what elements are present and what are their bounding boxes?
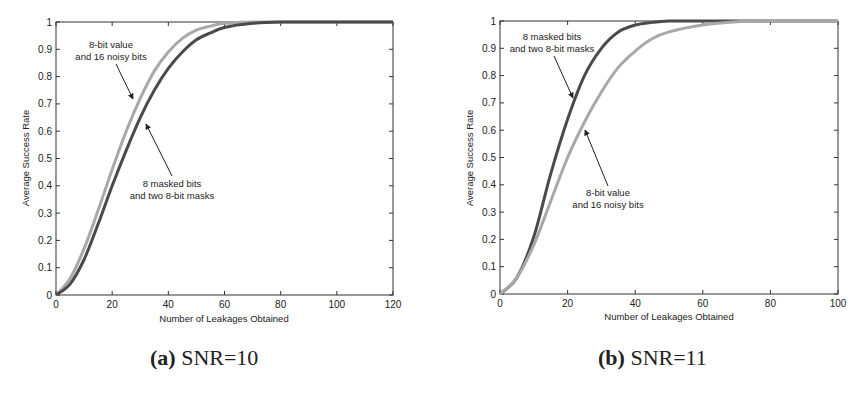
caption-a-label: (a): [150, 345, 176, 370]
y-tick-label: 1: [46, 17, 52, 28]
annotation-masked-bits-line2: and two 8-bit masks: [130, 190, 215, 201]
caption-a: (a) SNR=10: [150, 345, 258, 371]
y-tick-label: 0.9: [482, 43, 496, 54]
y-axis-label: Average Success Rate: [20, 110, 31, 206]
y-tick-label: 0.4: [38, 180, 52, 191]
x-tick-label: 0: [497, 298, 503, 309]
y-axis-label: Average Success Rate: [464, 110, 475, 206]
y-tick-label: 0.1: [482, 261, 496, 272]
annotation-masked-bits-line1: 8 masked bits: [523, 31, 582, 42]
caption-b-text: SNR=11: [630, 345, 706, 370]
series-line: [500, 21, 838, 294]
y-tick-label: 0.3: [482, 207, 496, 218]
y-tick-label: 0.2: [38, 235, 52, 246]
caption-a-text: SNR=10: [181, 345, 258, 370]
y-tick-label: 0.7: [482, 97, 496, 108]
y-tick-label: 0.2: [482, 234, 496, 245]
x-tick-label: 80: [275, 299, 287, 310]
x-tick-label: 40: [630, 298, 642, 309]
x-axis-ticks: 020406080100120: [53, 22, 402, 310]
x-tick-label: 100: [328, 299, 345, 310]
y-tick-label: 0.5: [482, 152, 496, 163]
series-line: [56, 22, 393, 295]
chart-b-snr11: 020406080100 00.10.20.30.40.50.60.70.80.…: [464, 16, 847, 323]
y-tick-label: 0.5: [38, 153, 52, 164]
y-tick-label: 0: [490, 289, 496, 300]
y-tick-label: 0.3: [38, 208, 52, 219]
annotation-masked-bits-line1: 8 masked bits: [143, 178, 202, 189]
y-tick-label: 0.6: [38, 126, 52, 137]
x-tick-label: 60: [697, 298, 709, 309]
annotation-noisy-bits-line1: 8-bit value: [586, 187, 630, 198]
y-tick-label: 1: [490, 16, 496, 27]
annotation-arrow: [146, 124, 172, 176]
y-tick-label: 0.7: [38, 98, 52, 109]
y-tick-label: 0.8: [482, 70, 496, 81]
series-line: [500, 21, 838, 294]
series-line: [56, 22, 393, 295]
annotation-noisy-bits-line2: and 16 noisy bits: [572, 199, 644, 210]
y-tick-label: 0.6: [482, 125, 496, 136]
plot-frame: [56, 22, 393, 295]
x-tick-label: 20: [107, 299, 119, 310]
y-tick-label: 0: [46, 290, 52, 301]
plot-frame: [500, 21, 838, 294]
caption-b-label: (b): [598, 345, 625, 370]
x-tick-label: 100: [830, 298, 847, 309]
x-tick-label: 60: [219, 299, 231, 310]
figure-canvas: 020406080100120 00.10.20.30.40.50.60.70.…: [0, 0, 865, 393]
x-tick-label: 80: [765, 298, 777, 309]
x-axis-label: Number of Leakages Obtained: [604, 311, 733, 322]
x-tick-label: 20: [562, 298, 574, 309]
annotation-arrow: [116, 64, 133, 99]
y-axis-ticks: 00.10.20.30.40.50.60.70.80.91: [482, 16, 838, 300]
annotation-masked-bits-line2: and two 8-bit masks: [510, 43, 595, 54]
x-tick-label: 120: [385, 299, 402, 310]
series-lines: [500, 21, 838, 294]
caption-b: (b) SNR=11: [598, 345, 707, 371]
x-tick-label: 0: [53, 299, 59, 310]
annotation-arrow: [585, 130, 608, 186]
y-tick-label: 0.4: [482, 179, 496, 190]
y-tick-label: 0.8: [38, 71, 52, 82]
y-tick-label: 0.1: [38, 262, 52, 273]
annotation-noisy-bits-line1: 8-bit value: [89, 39, 133, 50]
x-axis-ticks: 020406080100: [497, 21, 847, 309]
annotation-noisy-bits-line2: and 16 noisy bits: [75, 51, 147, 62]
x-axis-label: Number of Leakages Obtained: [159, 313, 288, 324]
annotation-arrow: [554, 56, 573, 98]
series-lines: [56, 22, 393, 295]
chart-a-snr10: 020406080100120 00.10.20.30.40.50.60.70.…: [20, 17, 402, 325]
x-tick-label: 40: [163, 299, 175, 310]
y-tick-label: 0.9: [38, 44, 52, 55]
